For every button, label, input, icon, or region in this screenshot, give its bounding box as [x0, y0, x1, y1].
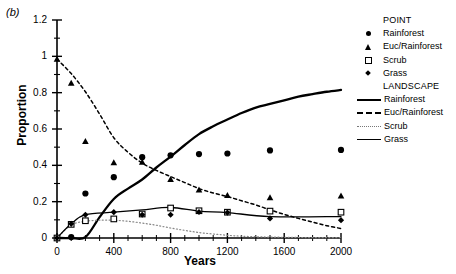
- legend-item-point-euc-rainforest: Euc/Rainforest: [355, 40, 443, 53]
- legend-label: Euc/Rainforest: [382, 106, 443, 119]
- y-tick-label: 1: [21, 50, 47, 61]
- y-tick-label: 0.6: [21, 123, 47, 134]
- y-tick-label: 0.8: [21, 87, 47, 98]
- x-tick-label: 0: [40, 246, 74, 257]
- triangle-filled-icon: [355, 44, 381, 50]
- solid-thick-line-icon: [355, 99, 382, 101]
- y-tick-label: 0.2: [21, 196, 47, 207]
- data-point-scrub: [111, 216, 117, 222]
- data-point-euc-rainforest: [267, 194, 274, 200]
- figure-panel: (b) Proportion Years 00.20.40.60.811.2 0…: [0, 0, 456, 274]
- data-point-scrub: [267, 208, 273, 214]
- legend-label: Grass: [381, 67, 407, 80]
- solid-thin-line-icon: [355, 139, 382, 140]
- data-point-rainforest: [82, 190, 88, 196]
- circle-filled-icon: [355, 31, 381, 36]
- x-tick-label: 1600: [267, 246, 301, 257]
- data-point-grass: [111, 209, 117, 215]
- legend-label: Rainforest: [381, 27, 424, 40]
- y-tick-label: 0: [21, 232, 47, 243]
- data-point-euc-rainforest: [224, 192, 231, 198]
- legend-label: Scrub: [381, 54, 407, 67]
- x-tick-label: 1200: [210, 246, 244, 257]
- data-point-rainforest: [267, 147, 273, 153]
- x-tick-label: 400: [97, 246, 131, 257]
- legend-item-point-rainforest: Rainforest: [355, 27, 443, 40]
- data-point-grass: [168, 212, 174, 218]
- legend-label: Grass: [382, 133, 408, 146]
- x-tick-label: 800: [154, 246, 188, 257]
- legend-landscape-header: LANDSCAPE: [383, 80, 443, 93]
- dashed-line-icon: [355, 112, 382, 114]
- legend: POINT Rainforest Euc/Rainforest Scrub Gr…: [355, 14, 443, 146]
- legend-point-header: POINT: [383, 14, 443, 27]
- data-point-rainforest: [224, 150, 230, 156]
- data-point-rainforest: [168, 152, 174, 158]
- landscape-curve-euc-rainforest: [57, 59, 341, 228]
- dotted-line-icon: [355, 126, 382, 127]
- data-point-euc-rainforest: [68, 80, 75, 86]
- data-point-rainforest: [111, 174, 117, 180]
- legend-item-landscape-grass: Grass: [355, 133, 443, 146]
- legend-item-landscape-rainforest: Rainforest: [355, 93, 443, 106]
- legend-label: Rainforest: [382, 93, 425, 106]
- legend-label: Euc/Rainforest: [381, 40, 442, 53]
- data-point-rainforest: [68, 234, 74, 240]
- legend-item-landscape-euc-rainforest: Euc/Rainforest: [355, 106, 443, 119]
- y-tick-label: 1.2: [21, 14, 47, 25]
- data-point-euc-rainforest: [111, 159, 118, 165]
- legend-item-point-grass: Grass: [355, 67, 443, 80]
- data-point-grass: [338, 217, 344, 223]
- square-open-icon: [355, 57, 381, 64]
- data-point-rainforest: [196, 151, 202, 157]
- legend-item-point-scrub: Scrub: [355, 54, 443, 67]
- data-point-scrub: [338, 209, 344, 215]
- legend-item-landscape-scrub: Scrub: [355, 120, 443, 133]
- data-point-grass: [82, 212, 88, 218]
- data-point-scrub: [83, 218, 89, 224]
- legend-label: Scrub: [382, 120, 408, 133]
- diamond-filled-icon: [355, 71, 381, 75]
- data-point-euc-rainforest: [82, 138, 89, 144]
- y-tick-label: 0.4: [21, 159, 47, 170]
- x-tick-label: 2000: [324, 246, 358, 257]
- data-point-scrub: [168, 205, 174, 211]
- data-point-rainforest: [338, 147, 344, 153]
- data-point-euc-rainforest: [338, 192, 345, 198]
